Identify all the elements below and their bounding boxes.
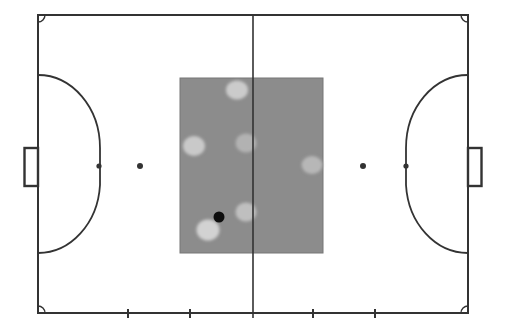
pitch-lines-layer (25, 15, 482, 318)
heat-blob (183, 136, 205, 156)
ball-marker (214, 212, 225, 223)
pitch-svg (0, 0, 505, 335)
penalty-area-right (406, 75, 468, 253)
heat-blob (197, 220, 220, 241)
pitch-diagram-stage (0, 0, 505, 335)
heat-blob (302, 156, 323, 174)
penalty-area-left (38, 75, 100, 253)
corner-arc-bottom-right (461, 306, 468, 313)
heat-blob (226, 81, 248, 100)
goal-left (25, 148, 39, 186)
corner-arc-bottom-left (38, 306, 45, 313)
corner-arc-top-left (38, 15, 45, 22)
right-penalty-spot (403, 163, 408, 168)
heat-overlay-layer (180, 78, 323, 253)
corner-arc-top-right (461, 15, 468, 22)
right-second-penalty-spot (360, 163, 366, 169)
goal-right (468, 148, 482, 186)
left-penalty-spot (96, 163, 101, 168)
left-second-penalty-spot (137, 163, 143, 169)
